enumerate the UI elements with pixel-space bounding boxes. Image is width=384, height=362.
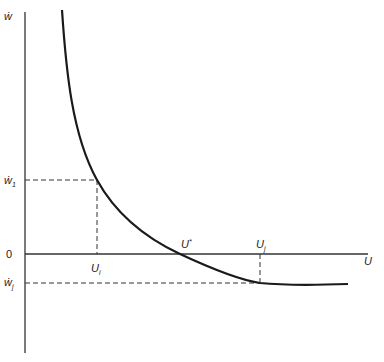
uj-label: Uj xyxy=(256,238,266,253)
y-axis-label: ẇ xyxy=(4,10,13,22)
ui-label: Ui xyxy=(91,262,101,276)
diagram-canvas: ẇ 0 ẇ1 ẇj Ui U* Uj U xyxy=(0,0,384,362)
w1-label: ẇ1 xyxy=(4,174,16,188)
ustar-label: U* xyxy=(181,238,192,250)
wage-curve xyxy=(62,10,348,285)
origin-label: 0 xyxy=(6,248,12,260)
x-axis-label: U xyxy=(364,255,372,267)
wj-label: ẇj xyxy=(4,276,14,291)
